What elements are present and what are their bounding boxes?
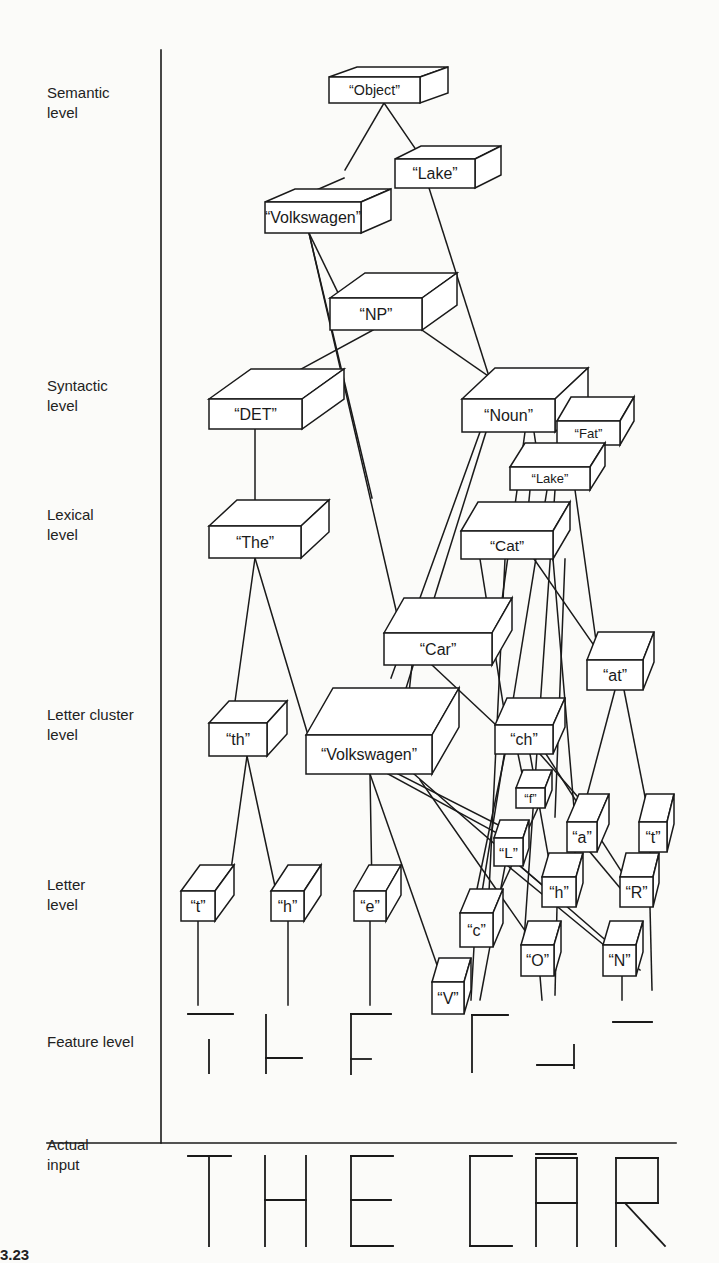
node-label: “a” <box>572 829 592 846</box>
node-label: “h” <box>549 884 569 901</box>
connection-line <box>575 490 598 655</box>
node-c: “c” <box>460 889 503 947</box>
level-label-lexical: Lexicallevel <box>47 505 94 545</box>
node-v: “V” <box>432 958 471 1014</box>
level-label-line: Semantic <box>47 83 110 103</box>
node-label: “NP” <box>360 306 393 323</box>
box-top-face <box>384 598 512 633</box>
level-label-line: level <box>47 396 108 416</box>
box-top-face <box>461 502 570 531</box>
level-label-line: Letter cluster <box>47 705 134 725</box>
node-volkswagen-cl: “Volkswagen” <box>306 688 459 774</box>
node-label: “t” <box>190 898 205 915</box>
node-label: “Car” <box>420 641 456 658</box>
node-label: “ch” <box>510 731 537 748</box>
level-label-line: Actual <box>47 1135 89 1155</box>
node-volkswagen-sem: “Volkswagen” <box>265 189 391 233</box>
node-label: “Lake” <box>412 165 457 182</box>
node-label: “at” <box>603 667 627 684</box>
level-label-feature: Feature level <box>47 1032 134 1052</box>
level-label-syntactic: Syntacticlevel <box>47 376 108 416</box>
node-label: “N” <box>608 952 630 969</box>
level-label-line: level <box>47 525 94 545</box>
level-label-semantic: Semanticlevel <box>47 83 110 123</box>
node-lake-lex: “Lake” <box>510 443 605 490</box>
level-label-line: Syntactic <box>47 376 108 396</box>
connection-line <box>247 756 276 891</box>
connection-line <box>232 558 255 723</box>
node-h2: “h” <box>542 853 583 907</box>
node-label: “V” <box>437 990 458 1007</box>
level-label-line: level <box>47 725 134 745</box>
node-label: “t” <box>645 829 660 846</box>
level-label-line: level <box>47 103 110 123</box>
node-label: “Lake” <box>532 471 569 486</box>
level-label-letter: Letterlevel <box>47 875 85 915</box>
node-label: “th” <box>226 731 250 748</box>
node-object: “Object” <box>329 67 448 103</box>
actual-input-letters <box>188 1154 665 1246</box>
connection-line <box>388 774 506 838</box>
node-det: “DET” <box>209 369 344 429</box>
node-the: “The” <box>209 500 329 558</box>
level-label-line: input <box>47 1155 89 1175</box>
box-top-face <box>510 443 605 467</box>
level-label-line: Feature level <box>47 1032 134 1052</box>
node-label: “Volkswagen” <box>321 746 417 763</box>
connection-line <box>650 907 652 990</box>
node-r: “R” <box>620 853 659 907</box>
level-label-line: level <box>47 895 85 915</box>
node-label: “Cat” <box>490 537 524 554</box>
node-o: “O” <box>521 921 561 976</box>
node-label: “e” <box>360 898 380 915</box>
node-car: “Car” <box>384 598 512 665</box>
node-label: “The” <box>236 534 274 551</box>
input-letter-stroke <box>625 1203 665 1246</box>
node-n: “N” <box>603 921 643 976</box>
node-label: “c” <box>467 922 486 939</box>
node-label: “f” <box>524 791 536 806</box>
node-label: “Noun” <box>484 407 533 424</box>
connection-line <box>309 233 341 299</box>
node-label: “Volkswagen” <box>265 209 361 226</box>
node-lake-sem: “Lake” <box>395 146 501 188</box>
node-t: “t” <box>181 865 234 921</box>
node-f: “f” <box>516 770 552 808</box>
node-ch: “ch” <box>495 698 565 754</box>
connection-line <box>540 976 542 1000</box>
level-label-actual-input: Actualinput <box>47 1135 89 1175</box>
node-label: “Fat” <box>575 426 603 441</box>
node-th: “th” <box>209 701 287 756</box>
node-e: “e” <box>354 865 401 921</box>
node-l: “L” <box>494 820 529 866</box>
level-label-line: Lexical <box>47 505 94 525</box>
detector-boxes: “Object”“Lake”“Volkswagen”“NP”“DET”“Noun… <box>181 67 674 1014</box>
node-cat: “Cat” <box>461 502 570 559</box>
node-h: “h” <box>271 865 321 921</box>
node-label: “O” <box>526 952 549 969</box>
node-np: “NP” <box>330 273 457 330</box>
figure-number: 3.23 <box>0 1246 29 1263</box>
connection-line <box>345 103 384 170</box>
node-label: “L” <box>499 844 518 861</box>
node-at: “at” <box>587 632 654 690</box>
level-label-line: Letter <box>47 875 85 895</box>
connection-line <box>590 852 620 888</box>
node-label: “DET” <box>234 406 277 423</box>
feature-level-strokes <box>188 1014 652 1074</box>
connection-line <box>393 432 486 730</box>
node-label: “R” <box>625 884 647 901</box>
node-fat: “Fat” <box>557 397 634 445</box>
level-label-letter-cluster: Letter clusterlevel <box>47 705 134 745</box>
node-label: “Object” <box>349 82 400 98</box>
node-label: “h” <box>278 898 298 915</box>
node-t2: “t” <box>639 794 674 852</box>
